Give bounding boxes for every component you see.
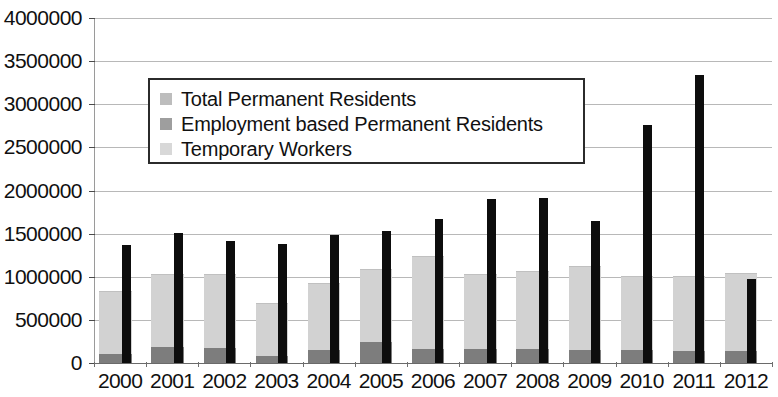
x-axis-tick-mark	[146, 362, 147, 367]
x-axis-tick-label: 2011	[668, 368, 720, 394]
bar-group	[616, 18, 668, 363]
legend-swatch-total-icon	[160, 93, 172, 105]
bar-temporary-workers	[539, 198, 548, 363]
y-axis-tick-label: 1500000	[4, 223, 82, 244]
plot-area	[94, 18, 772, 363]
bar-temporary-workers	[643, 125, 652, 363]
bar-temporary-workers	[591, 221, 600, 363]
x-axis-tick-mark	[668, 362, 669, 367]
bar-group	[198, 18, 250, 363]
bar-temporary-workers	[122, 245, 131, 363]
chart-legend: Total Permanent Residents Employment bas…	[148, 78, 585, 164]
legend-item: Employment based Permanent Residents	[160, 111, 575, 136]
x-axis-tick-mark	[94, 362, 95, 367]
bars-layer	[94, 18, 772, 363]
axis-baseline	[94, 363, 772, 364]
x-axis-tick-label: 2002	[198, 368, 250, 394]
bar-temporary-workers	[435, 219, 444, 363]
y-axis: 4000000350000030000002500000200000015000…	[0, 0, 88, 397]
x-axis-tick-mark	[459, 362, 460, 367]
x-axis-tick-mark	[772, 362, 773, 367]
x-axis-tick-mark	[720, 362, 721, 367]
bar-group	[355, 18, 407, 363]
bar-group	[407, 18, 459, 363]
x-axis-tick-label: 2001	[146, 368, 198, 394]
x-axis-tick-mark	[563, 362, 564, 367]
x-axis-tick-mark	[616, 362, 617, 367]
bar-group	[720, 18, 772, 363]
bar-group	[303, 18, 355, 363]
bar-temporary-workers	[382, 231, 391, 363]
bar-temporary-workers	[695, 75, 704, 363]
legend-label-employment: Employment based Permanent Residents	[181, 113, 543, 135]
y-axis-tick-label: 3000000	[4, 93, 82, 114]
y-axis-tick-label: 4000000	[4, 7, 82, 28]
x-axis-tick-label: 2008	[511, 368, 563, 394]
x-axis-tick-label: 2000	[94, 368, 146, 394]
legend-item: Total Permanent Residents	[160, 86, 575, 111]
x-axis-tick-label: 2003	[250, 368, 302, 394]
bar-group	[459, 18, 511, 363]
y-axis-tick-label: 1000000	[4, 266, 82, 287]
bar-group	[668, 18, 720, 363]
x-axis-tick-mark	[355, 362, 356, 367]
bar-group	[511, 18, 563, 363]
bar-temporary-workers	[747, 279, 756, 363]
bar-temporary-workers	[226, 241, 235, 363]
y-axis-tick-label: 3500000	[4, 50, 82, 71]
bar-temporary-workers	[174, 233, 183, 363]
x-axis-tick-label: 2007	[459, 368, 511, 394]
x-axis-tick-label: 2005	[355, 368, 407, 394]
x-axis-tick-label: 2009	[563, 368, 615, 394]
bar-temporary-workers	[330, 235, 339, 363]
bar-chart: 4000000350000030000002500000200000015000…	[0, 0, 778, 397]
y-axis-tick-label: 2500000	[4, 136, 82, 157]
x-axis-tick-mark	[407, 362, 408, 367]
x-axis-tick-mark	[198, 362, 199, 367]
bar-group	[146, 18, 198, 363]
y-axis-tick-label: 500000	[15, 309, 82, 330]
bar-group	[563, 18, 615, 363]
x-axis-tick-mark	[511, 362, 512, 367]
bar-temporary-workers	[487, 199, 496, 363]
x-axis-tick-mark	[250, 362, 251, 367]
legend-swatch-temporary-icon	[160, 143, 172, 155]
legend-item: Temporary Workers	[160, 136, 575, 161]
legend-label-temporary: Temporary Workers	[181, 138, 352, 160]
x-axis-tick-label: 2004	[303, 368, 355, 394]
x-axis-tick-label: 2012	[720, 368, 772, 394]
x-axis-tick-label: 2006	[407, 368, 459, 394]
legend-label-total: Total Permanent Residents	[181, 88, 416, 110]
y-axis-tick-label: 2000000	[4, 180, 82, 201]
legend-swatch-employment-icon	[160, 118, 172, 130]
bar-group	[94, 18, 146, 363]
x-axis: 2000200120022003200420052006200720082009…	[94, 366, 772, 397]
y-axis-tick-label: 0	[71, 352, 82, 373]
bar-group	[250, 18, 302, 363]
bar-temporary-workers	[278, 244, 287, 363]
x-axis-tick-label: 2010	[616, 368, 668, 394]
x-axis-tick-mark	[303, 362, 304, 367]
